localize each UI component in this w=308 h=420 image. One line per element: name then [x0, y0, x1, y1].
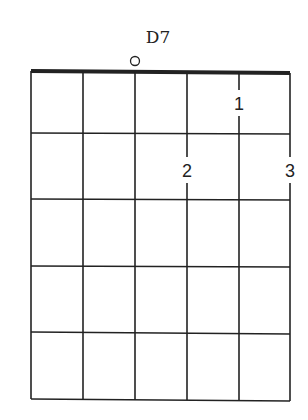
- fret-1: [31, 133, 290, 134]
- open-string-marker: [131, 57, 140, 66]
- nut: [31, 71, 290, 73]
- finger-2-marker: 2: [182, 161, 192, 181]
- fret-4: [31, 332, 290, 334]
- finger-1-marker: 1: [234, 94, 244, 114]
- fret-2: [31, 199, 290, 200]
- fret-3: [31, 266, 290, 267]
- finger-3-marker: 3: [285, 161, 295, 181]
- fretboard-grid: [31, 71, 290, 401]
- chord-diagram: 1 2 3: [0, 0, 308, 420]
- fret-5: [31, 399, 290, 401]
